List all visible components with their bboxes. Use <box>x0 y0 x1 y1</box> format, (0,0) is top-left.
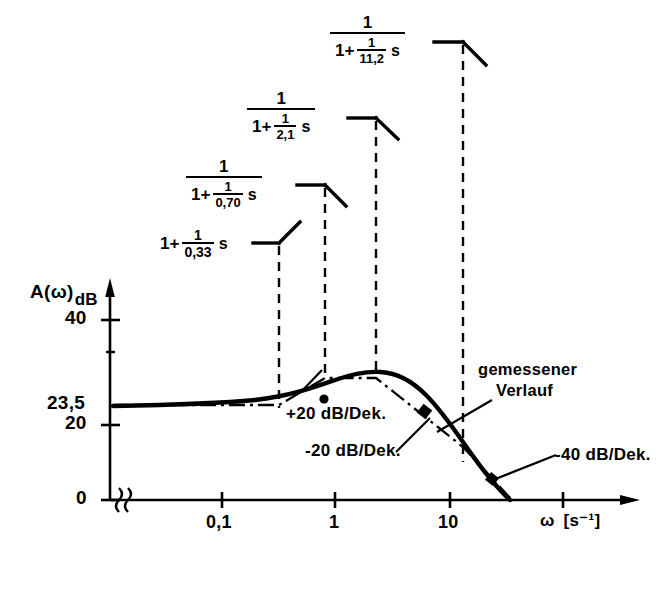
transfer-term-pole-2-1: 1 1+ 1 2,1 s <box>247 90 315 141</box>
x-axis-label-unit: [s⁻¹] <box>563 511 600 530</box>
y-tick-label-20: 20 <box>65 412 87 434</box>
annotation-measured-curve-line2: Verlauf <box>496 381 553 400</box>
tf1-variable: s <box>219 235 228 253</box>
x-axis <box>110 488 640 512</box>
y-tick-label-0: 0 <box>76 487 87 509</box>
tf2-den-lead: 1+ <box>191 186 210 203</box>
annotation-slope-minus-40: -40 dB/Dek. <box>555 445 651 465</box>
asymptote-sketch-pole-2-1 <box>348 118 398 139</box>
tf1-lead: 1+ <box>160 234 179 254</box>
asymptote-polyline <box>113 378 512 500</box>
figure-canvas <box>0 0 667 591</box>
x-tick-label-10: 10 <box>438 512 459 533</box>
tf2-variable: s <box>248 187 257 203</box>
y-axis-label: A(ω)dB <box>30 281 97 303</box>
annotation-measured-curve-line1: gemessener <box>478 360 577 379</box>
measured-curve <box>113 372 510 500</box>
tf3-den-den: 2,1 <box>274 125 296 141</box>
tf1-denominator: 0,33 <box>182 242 213 259</box>
tf4-variable: s <box>391 43 400 59</box>
x-tick-label-0-1: 0,1 <box>206 512 232 533</box>
tf4-den-num: 1 <box>366 36 377 49</box>
x-axis-label: ω [s⁻¹] <box>540 510 600 531</box>
bode-plot-figure: 1 1+ 1 11,2 s 1 1+ 1 2,1 s <box>0 0 667 591</box>
asymptote-sketch-zero-0-33 <box>253 222 300 243</box>
y-axis <box>101 278 120 500</box>
tf4-den-lead: 1+ <box>335 42 354 59</box>
tf3-numerator: 1 <box>271 90 290 108</box>
y-tick-label-40: 40 <box>65 307 87 329</box>
transfer-term-zero-0-33: 1+ 1 0,33 s <box>160 228 228 259</box>
transfer-term-pole-11-2: 1 1+ 1 11,2 s <box>330 14 405 65</box>
tf2-den-num: 1 <box>222 180 233 193</box>
y-axis-label-main: A(ω) <box>30 281 74 302</box>
leader-minus-40 <box>493 455 556 480</box>
asymptote-sketch-pole-0-70 <box>297 185 346 206</box>
y-tick-label-23-5: 23,5 <box>47 392 85 414</box>
tf1-numerator: 1 <box>192 228 204 242</box>
x-axis-label-symbol: ω <box>540 511 555 530</box>
tf4-den-den: 11,2 <box>357 49 386 65</box>
tf3-variable: s <box>301 119 310 135</box>
asymptote-sketch-pole-11-2 <box>434 42 486 65</box>
annotation-slope-plus-20: +20 dB/Dek. <box>286 404 386 424</box>
leader-minus-20 <box>396 418 430 452</box>
annotation-slope-minus-20: -20 dB/Dek. <box>305 441 401 461</box>
tf2-numerator: 1 <box>214 158 233 176</box>
tf3-den-lead: 1+ <box>252 118 271 135</box>
x-tick-label-1: 1 <box>329 512 339 533</box>
tf2-den-den: 0,70 <box>213 193 242 209</box>
transfer-term-pole-0-70: 1 1+ 1 0,70 s <box>186 158 262 209</box>
tf3-den-num: 1 <box>280 112 291 125</box>
tf4-numerator: 1 <box>358 14 377 32</box>
